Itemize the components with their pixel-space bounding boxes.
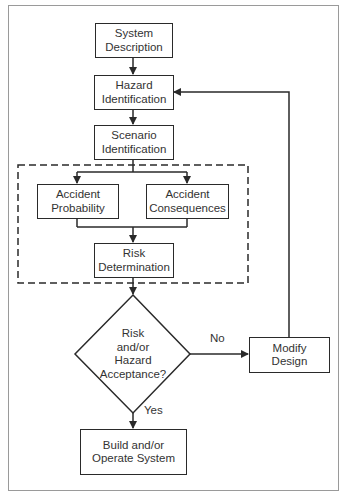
node-text: Consequences <box>149 202 226 216</box>
decision-diamond-label: Risk and/or Hazard Acceptance? <box>93 327 173 381</box>
accident-consequences-box: Accident Consequences <box>146 184 229 219</box>
node-text: Determination <box>98 261 170 275</box>
node-text: Design <box>272 355 308 369</box>
scenario-identification-box: Scenario Identification <box>94 125 174 160</box>
accident-probability-box: Accident Probability <box>37 184 119 219</box>
build-operate-system-box: Build and/or Operate System <box>80 429 187 475</box>
node-text: Hazard <box>93 354 173 368</box>
node-text: Description <box>105 41 163 55</box>
node-text: Identification <box>102 93 167 107</box>
node-text: Risk <box>93 327 173 341</box>
system-description-box: System Description <box>95 23 173 58</box>
node-text: Operate System <box>92 452 175 466</box>
hazard-identification-box: Hazard Identification <box>94 75 174 110</box>
node-text: Hazard <box>115 79 152 93</box>
modify-design-box: Modify Design <box>249 337 330 373</box>
node-text: and/or <box>93 341 173 355</box>
no-edge-label: No <box>210 332 225 344</box>
node-text: System <box>115 27 153 41</box>
node-text: Acceptance? <box>93 368 173 382</box>
yes-edge-label: Yes <box>144 404 163 416</box>
node-text: Accident <box>56 188 100 202</box>
node-text: Scenario <box>111 129 156 143</box>
node-text: Probability <box>51 202 105 216</box>
node-text: Accident <box>165 188 209 202</box>
node-text: Modify <box>273 342 307 356</box>
node-text: Identification <box>102 143 167 157</box>
risk-determination-box: Risk Determination <box>94 243 174 278</box>
node-text: Build and/or <box>103 439 164 453</box>
node-text: Risk <box>123 247 145 261</box>
